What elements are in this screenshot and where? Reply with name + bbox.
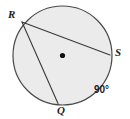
geometry-figure: R S Q 90° — [0, 0, 130, 119]
arc-angle-label: 90° — [94, 85, 109, 95]
point-label-s: S — [115, 47, 121, 58]
point-label-q: Q — [57, 105, 65, 116]
point-label-r: R — [8, 9, 15, 20]
circle-diagram-canvas — [0, 0, 130, 119]
circle-center-dot — [60, 53, 65, 58]
